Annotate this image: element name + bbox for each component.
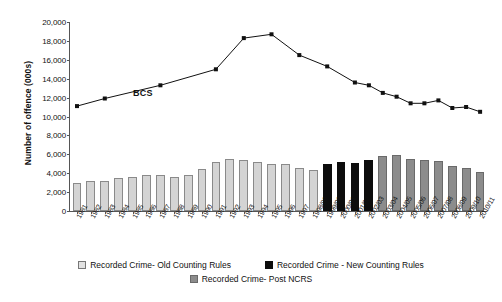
plot-area: 20,00018,00016,00014,00012,00010,0008,00… — [69, 22, 487, 212]
y-axis-tick-label: 12,000 — [42, 93, 66, 102]
bcs-data-point — [325, 64, 329, 68]
y-axis-tick-label: 16,000 — [42, 55, 66, 64]
bcs-data-point — [75, 104, 79, 108]
bcs-data-point — [395, 95, 399, 99]
bcs-data-point — [422, 101, 426, 105]
bcs-data-point — [158, 83, 162, 87]
bcs-data-point — [464, 105, 468, 109]
bcs-data-point — [103, 97, 107, 101]
bcs-data-point — [353, 81, 357, 85]
bcs-data-point — [450, 106, 454, 110]
bcs-data-point — [270, 32, 274, 36]
legend-item-post-ncrs: Recorded Crime- Post NCRS — [190, 272, 313, 286]
y-axis-title: Number of offence (000s) — [23, 23, 33, 203]
legend-item-new-counting-rules: Recorded Crime - New Counting Rules — [265, 258, 424, 272]
y-axis-tick-label: 6,000 — [46, 150, 66, 159]
y-axis-tick-label: 2,000 — [46, 188, 66, 197]
y-axis-tick-label: 0 — [62, 207, 66, 216]
legend-row-primary: Recorded Crime- Old Counting Rules Recor… — [0, 258, 502, 272]
legend-swatch-icon-new — [265, 261, 273, 269]
bcs-data-point — [409, 101, 413, 105]
legend-item-old-counting-rules: Recorded Crime- Old Counting Rules — [78, 258, 231, 272]
y-axis-tick-label: 14,000 — [42, 74, 66, 83]
legend-swatch-icon-old — [78, 261, 86, 269]
legend-label-new: Recorded Crime - New Counting Rules — [277, 258, 424, 272]
bcs-line-path — [77, 34, 480, 112]
bcs-data-point — [214, 67, 218, 71]
legend-label-old: Recorded Crime- Old Counting Rules — [90, 258, 231, 272]
bcs-data-point — [297, 53, 301, 57]
y-axis-tick-label: 10,000 — [42, 112, 66, 121]
y-axis-tick-label: 4,000 — [46, 169, 66, 178]
bcs-data-point — [436, 98, 440, 102]
y-axis-tick-label: 8,000 — [46, 131, 66, 140]
legend-label-ncrs: Recorded Crime- Post NCRS — [202, 272, 313, 286]
plot-inner: 20,00018,00016,00014,00012,00010,0008,00… — [70, 22, 487, 211]
chart-legend: Recorded Crime- Old Counting Rules Recor… — [0, 258, 502, 286]
bcs-line-series — [70, 22, 487, 211]
bcs-series-label: BCS — [133, 88, 153, 98]
bcs-data-point — [367, 83, 371, 87]
y-axis-tick-label: 18,000 — [42, 36, 66, 45]
y-axis-tick-mark — [67, 211, 70, 212]
bcs-data-point — [478, 110, 482, 114]
bcs-data-point — [242, 36, 246, 40]
legend-row-secondary: Recorded Crime- Post NCRS — [0, 272, 502, 286]
legend-swatch-icon-ncrs — [190, 275, 198, 283]
bcs-data-point — [381, 91, 385, 95]
y-axis-tick-label: 20,000 — [42, 18, 66, 27]
crime-statistics-chart: Number of offence (000s) 20,00018,00016,… — [0, 0, 502, 302]
